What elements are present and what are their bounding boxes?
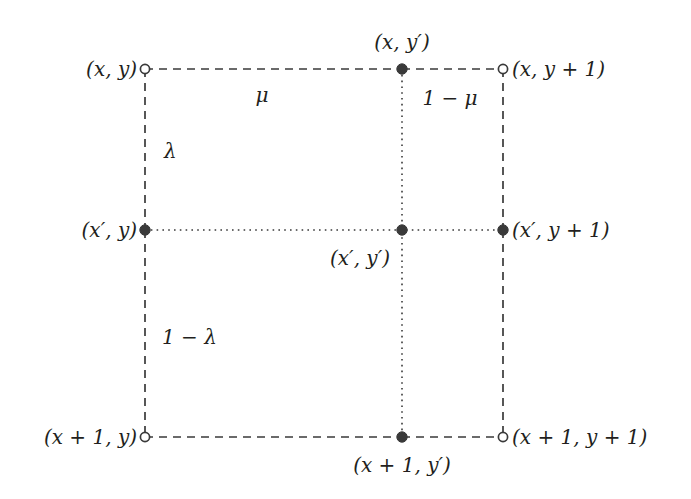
node-marker-top-center [397, 64, 407, 74]
node-marker-middle-left [140, 225, 150, 235]
markers-layer [140, 64, 508, 442]
node-marker-top-right [498, 64, 507, 73]
node-label-top-center: (x, y′) [374, 32, 429, 52]
node-label-bottom-right: (x + 1, y + 1) [512, 427, 647, 447]
node-label-middle-left: (x′, y) [82, 220, 137, 240]
edge-label-lambda: λ [164, 141, 177, 161]
node-marker-bottom-center [397, 432, 407, 442]
node-label-middle-right: (x′, y + 1) [512, 220, 610, 240]
node-label-top-right: (x, y + 1) [512, 59, 605, 79]
node-marker-middle-right [498, 225, 508, 235]
node-marker-bottom-right [498, 432, 507, 441]
edge-label-one-minus-lambda: 1 − λ [162, 327, 217, 347]
node-label-middle-center: (x′, y′) [330, 248, 390, 268]
node-marker-bottom-left [140, 432, 149, 441]
node-marker-middle-center [397, 225, 407, 235]
node-label-bottom-center: (x + 1, y′) [353, 455, 451, 475]
node-marker-top-left [140, 64, 149, 73]
segments-layer [145, 69, 503, 437]
edge-label-mu: μ [256, 85, 269, 105]
node-label-bottom-left: (x + 1, y) [44, 427, 137, 447]
edge-label-one-minus-mu: 1 − μ [422, 88, 477, 108]
diagram-canvas: (x, y)(x, y′)(x, y + 1)(x′, y)(x′, y′)(x… [0, 0, 691, 499]
node-label-top-left: (x, y) [86, 59, 137, 79]
